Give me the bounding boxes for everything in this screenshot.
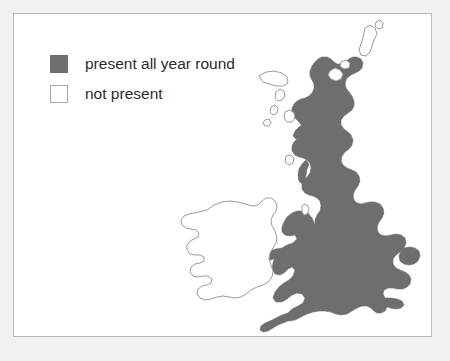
region-shetland-islands (359, 25, 377, 56)
legend-item-absent: not present (50, 79, 290, 109)
region-south-east-england (383, 298, 404, 309)
region-islay-jura (285, 155, 294, 165)
region-kintyre-peninsula (298, 160, 309, 184)
region-orkney-islands (328, 68, 343, 81)
region-isle-of-man (302, 204, 309, 215)
region-great-britain (272, 57, 411, 321)
region-ireland (181, 198, 277, 300)
legend-swatch-present (50, 55, 68, 73)
region-northwest-scotland (293, 122, 313, 139)
region-orkney-north-isle (340, 60, 350, 69)
region-wales-promontory (263, 248, 284, 261)
legend-swatch-absent (50, 85, 68, 103)
region-east-anglia (399, 247, 420, 265)
legend-label-present: present all year round (85, 56, 235, 72)
region-cornwall-peninsula (260, 313, 293, 332)
map-panel: present all year round not present (13, 13, 432, 337)
map-legend: present all year round not present (50, 49, 290, 109)
legend-item-present: present all year round (50, 49, 290, 79)
figure-root: present all year round not present (0, 0, 450, 361)
region-barra-island (263, 119, 271, 126)
region-isle-of-skye (284, 110, 295, 122)
region-shetland-north-isle (375, 20, 383, 29)
legend-label-absent: not present (85, 86, 163, 102)
